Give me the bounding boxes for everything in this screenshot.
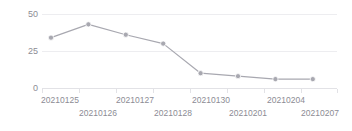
series-line [51, 24, 313, 79]
data-point[interactable] [273, 77, 278, 82]
data-point[interactable] [161, 41, 166, 46]
data-point[interactable] [123, 32, 128, 37]
series-container [0, 0, 352, 131]
data-point[interactable] [48, 35, 53, 40]
line-chart: 50 25 0 20210125 20210126 20210127 20210… [0, 0, 352, 131]
data-point[interactable] [198, 71, 203, 76]
plot-area: 50 25 0 20210125 20210126 20210127 20210… [0, 0, 352, 131]
series-markers [48, 22, 315, 82]
data-point[interactable] [86, 22, 91, 27]
data-point[interactable] [310, 77, 315, 82]
data-point[interactable] [235, 74, 240, 79]
